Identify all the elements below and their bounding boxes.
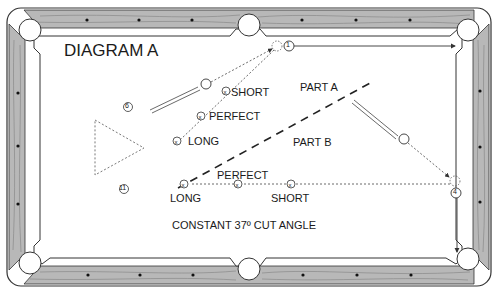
diamond-marker — [355, 273, 358, 276]
diamond-marker — [16, 144, 19, 147]
pocket-top-left — [19, 19, 41, 41]
diamond-marker — [478, 145, 481, 148]
rail-right — [473, 24, 489, 270]
diamond-marker — [301, 273, 304, 276]
diamond-marker — [408, 18, 411, 21]
upper-short-label: SHORT — [231, 86, 269, 98]
pocket-bottom-middle — [238, 258, 260, 280]
svg-text:x: x — [236, 182, 239, 188]
cue-ball — [201, 79, 211, 89]
upper-long-label: LONG — [188, 135, 219, 147]
diamond-marker — [85, 18, 88, 21]
diamond-marker — [86, 273, 89, 276]
ball-6-number: 6 — [125, 102, 129, 109]
pocket-bottom-right — [457, 248, 479, 270]
part-a-label: PART A — [300, 81, 338, 93]
diamond-marker — [190, 18, 193, 21]
lower-short-label: SHORT — [271, 192, 309, 204]
part-b-label: PART B — [293, 136, 332, 148]
lower-perfect-label: PERFECT — [217, 169, 268, 181]
diamond-marker — [138, 273, 141, 276]
upper-perfect-label: PERFECT — [209, 110, 260, 122]
svg-text:x: x — [289, 182, 292, 188]
diamond-marker — [300, 18, 303, 21]
svg-text:x: x — [224, 89, 227, 95]
lower-long-label: LONG — [170, 192, 201, 204]
pool-table-diagram: x x x x x x DIAGRAM A PART A PART B SHOR… — [0, 0, 498, 293]
rail-left — [9, 24, 25, 270]
diamond-marker — [478, 89, 481, 92]
diamond-marker — [409, 273, 412, 276]
diamond-marker — [16, 202, 19, 205]
diamond-marker — [478, 200, 481, 203]
diamond-marker — [191, 273, 194, 276]
diamond-marker — [16, 91, 19, 94]
ball-1-number: 1 — [286, 41, 290, 48]
svg-text:x: x — [182, 182, 185, 188]
caption: CONSTANT 37º CUT ANGLE — [172, 219, 316, 231]
cue-ball-2 — [399, 134, 409, 144]
diamond-marker — [354, 18, 357, 21]
pocket-bottom-left — [19, 252, 41, 274]
ball-4-number: 4 — [453, 188, 457, 195]
diagram-title: DIAGRAM A — [64, 41, 158, 61]
pocket-top-right — [457, 19, 479, 41]
diamond-marker — [137, 18, 140, 21]
ball-11-number: 11 — [119, 184, 126, 191]
svg-text:x: x — [199, 114, 202, 120]
pocket-top-middle — [238, 14, 260, 36]
svg-text:x: x — [175, 139, 178, 145]
